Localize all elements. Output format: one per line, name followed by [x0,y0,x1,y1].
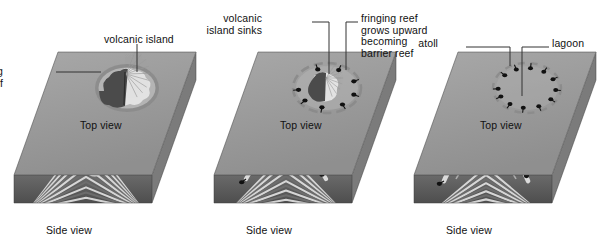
side-view-label: Side view [246,224,292,236]
top-view-label: Top view [280,119,322,131]
callout-volcanic-island: volcanic island [104,34,174,46]
side-view-label: Side view [46,224,92,236]
top-view-label: Top view [80,119,122,131]
stage-3-atoll: atolllagoonTop viewSide view [400,0,614,245]
callout-lagoon: lagoon [552,38,584,50]
stage-2-barrier-reef: volcanic island sinksfringing reef grows… [200,0,414,245]
side-view-label: Side view [446,224,492,236]
top-view-label: Top view [480,119,522,131]
callout-volcanic-island-sinks: volcanic island sinks [207,13,262,36]
callout-atoll: atoll [418,38,438,50]
callout-fringing-coral-reef: fringing coral reef [0,66,3,89]
stage-1-fringing-reef: volcanic islandfringing coral reefTop vi… [0,0,214,245]
